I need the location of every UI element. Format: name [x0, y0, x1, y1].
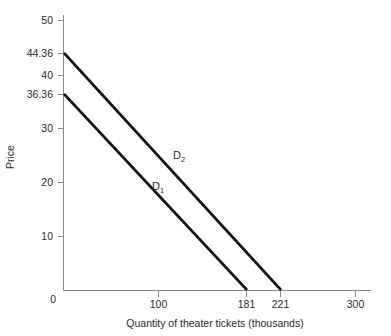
chart-canvas: 50 44.36 40 36.36 30 20 10 0 100 181 221…	[0, 0, 391, 336]
x-axis-title: Quantity of theater tickets (thousands)	[126, 317, 303, 329]
axes-group	[64, 15, 372, 291]
demand-curves-group	[64, 53, 281, 290]
y-axis-label-30: 30	[41, 122, 53, 134]
y-axis-label-36-36: 36.36	[27, 88, 53, 100]
y-axis-label-50: 50	[41, 14, 53, 26]
y-axis-title: Price	[4, 145, 16, 169]
curve-label-d2: D	[173, 149, 181, 161]
y-tick-labels: 50 44.36 40 36.36 30 20 10 0	[27, 14, 56, 305]
y-tick-marks	[58, 21, 64, 237]
x-axis-label-181: 181	[238, 298, 256, 310]
curve-label-d1-subscript: 1	[160, 186, 164, 195]
demand-curve-chart: 50 44.36 40 36.36 30 20 10 0 100 181 221…	[0, 0, 391, 336]
x-axis-label-300: 300	[347, 298, 365, 310]
curve-label-d1: D	[152, 180, 160, 192]
y-axis-label-10: 10	[41, 230, 53, 242]
y-axis-label-40: 40	[41, 69, 53, 81]
x-tick-marks	[159, 291, 356, 297]
y-axis-label-0: 0	[50, 293, 56, 305]
curve-annotation-d2: D 2	[173, 149, 185, 164]
y-axis-label-20: 20	[41, 176, 53, 188]
demand-curve-d2	[64, 53, 281, 290]
demand-curve-d1	[64, 94, 247, 290]
x-axis-label-100: 100	[150, 298, 168, 310]
curve-label-d2-subscript: 2	[181, 155, 185, 164]
x-axis-label-221: 221	[272, 298, 290, 310]
y-axis-label-44-36: 44.36	[27, 47, 53, 59]
x-tick-labels: 100 181 221 300	[150, 298, 365, 310]
curve-annotation-d1: D 1	[152, 180, 164, 195]
